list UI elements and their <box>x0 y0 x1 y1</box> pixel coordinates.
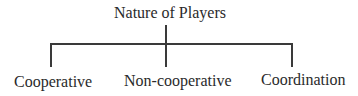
root-node-label: Nature of Players <box>114 4 226 22</box>
child-connector-line-coordination <box>291 43 293 67</box>
child-node-label-non-cooperative: Non-cooperative <box>124 72 232 90</box>
horizontal-connector-bar <box>50 43 293 45</box>
child-node-label-coordination: Coordination <box>261 71 345 89</box>
diagram-canvas: Nature of Players Cooperative Non-cooper… <box>0 0 358 96</box>
root-connector-line <box>165 25 167 45</box>
child-connector-line-cooperative <box>50 43 52 67</box>
child-node-label-cooperative: Cooperative <box>14 73 92 91</box>
child-connector-line-non-cooperative <box>165 43 167 67</box>
